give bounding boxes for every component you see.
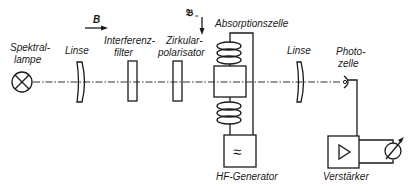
amplifier-label: Verstärker <box>323 171 369 182</box>
optical-pumping-setup-diagram: Spektral- lampe Linse B Interferenz- fil… <box>0 0 413 192</box>
photocell <box>343 76 357 136</box>
spectral-lamp <box>12 72 32 92</box>
hf-generator-glyph: ≈ <box>233 143 241 160</box>
interference-filter-label-2: filter <box>114 47 134 58</box>
absorption-cell-label: Absorptionszelle <box>214 18 289 29</box>
lens-2-label: Linse <box>287 45 311 56</box>
static-field-arrow <box>85 26 108 31</box>
spectral-lamp-label-2: lampe <box>14 54 42 65</box>
hf-generator-label: HF-Generator <box>216 171 278 182</box>
absorption-cell <box>214 33 253 135</box>
amplifier <box>328 136 393 168</box>
photocell-label-1: Photo- <box>336 46 366 57</box>
circular-polarizer-label-2: polarisator <box>157 47 205 58</box>
interference-filter <box>128 61 137 101</box>
circular-polarizer-label-1: Zirkular- <box>165 35 203 46</box>
interference-filter-label-1: Interferenz- <box>104 35 156 46</box>
rf-field-subscript: ≈ <box>195 13 199 19</box>
photocell-label-2: zelle <box>337 58 359 69</box>
circular-polarizer <box>173 61 182 101</box>
rf-field-label: 𝔅 <box>185 7 194 18</box>
static-field-label: B <box>93 14 100 25</box>
lens-1-label: Linse <box>65 45 89 56</box>
rf-field-arrow <box>200 17 205 35</box>
spectral-lamp-label-1: Spektral- <box>10 42 51 53</box>
